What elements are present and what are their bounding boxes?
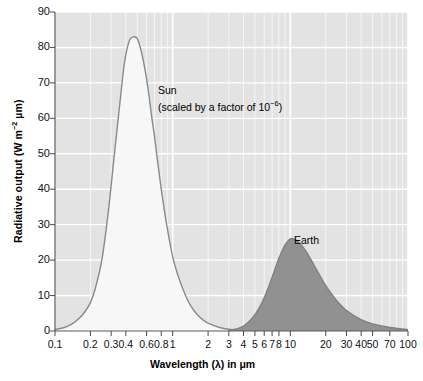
sun-label-exponent: −6 bbox=[270, 99, 279, 108]
x-tick-label: 2 bbox=[205, 338, 211, 350]
x-tick-label: 0.4 bbox=[119, 338, 134, 350]
x-tick-label: 0.2 bbox=[83, 338, 98, 350]
x-tick-label: 50 bbox=[367, 338, 379, 350]
x-tick-label: 30 bbox=[341, 338, 353, 350]
x-tick-label: 6 bbox=[261, 338, 267, 350]
chart-figure: Radiative output (W m−2 µm) 010203040506… bbox=[0, 0, 423, 381]
x-tick-label: 4 bbox=[241, 338, 247, 350]
sun-label-line2: (scaled by a factor of 10−6) bbox=[158, 97, 282, 114]
sun-label-line1: Sun bbox=[158, 84, 282, 97]
x-tick-label: 1 bbox=[170, 338, 176, 350]
x-tick-label: 70 bbox=[384, 338, 396, 350]
plot-area bbox=[0, 0, 423, 381]
x-tick-label: 0.6 bbox=[139, 338, 154, 350]
x-tick-label: 10 bbox=[284, 338, 296, 350]
sun-label-line2-suffix: ) bbox=[279, 101, 283, 113]
x-tick-label: 20 bbox=[320, 338, 332, 350]
x-tick-label: 0.1 bbox=[48, 338, 63, 350]
sun-label-line2-prefix: (scaled by a factor of 10 bbox=[158, 101, 270, 113]
x-tick-label: 0.3 bbox=[104, 338, 119, 350]
x-tick-label: 5 bbox=[252, 338, 258, 350]
x-tick-label: 0.8 bbox=[154, 338, 169, 350]
x-tick-label: 100 bbox=[399, 338, 417, 350]
x-axis-label: Wavelength (λ) in μm bbox=[150, 358, 255, 370]
x-tick-label: 3 bbox=[226, 338, 232, 350]
sun-label: Sun (scaled by a factor of 10−6) bbox=[158, 84, 282, 114]
x-tick-label: 7 bbox=[269, 338, 275, 350]
x-tick-label: 40 bbox=[355, 338, 367, 350]
earth-label: Earth bbox=[294, 234, 319, 247]
x-tick-label: 8 bbox=[276, 338, 282, 350]
